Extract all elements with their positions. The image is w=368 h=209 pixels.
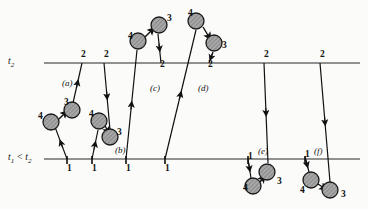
panel-label-f: (f)	[314, 147, 323, 156]
endpoint-number-9: 2	[208, 60, 213, 70]
particle-number-5: 3	[167, 14, 172, 24]
particle-number-10: 4	[300, 186, 305, 196]
particle-ball	[102, 129, 118, 145]
direction-arrow-c	[131, 104, 132, 109]
endpoint-number-3: 1	[165, 164, 170, 174]
direction-arrow-d	[179, 94, 180, 99]
interaction-connector	[203, 27, 209, 37]
particle-number-1: 3	[64, 98, 69, 108]
particle-number-7: 3	[222, 41, 227, 51]
endpoint-number-11: 2	[320, 50, 325, 60]
panel-label-c: (c)	[150, 84, 160, 93]
figure-canvas: t2 t1 < t2 (a)(b)(c)(d)(e)(f) 1111112222…	[0, 0, 368, 209]
axis-label-t2: t2	[8, 57, 14, 69]
direction-arrow-b	[94, 144, 95, 149]
endpoint-number-10: 2	[264, 50, 269, 60]
particle-number-8: 4	[243, 184, 248, 194]
particle-number-0: 4	[38, 112, 43, 122]
particle-ball	[303, 172, 319, 188]
particle-ball	[322, 182, 338, 198]
direction-arrow-f	[306, 160, 307, 165]
particle-ball	[259, 164, 275, 180]
particle-number-4: 4	[128, 32, 133, 42]
endpoint-number-8: 2	[160, 60, 165, 70]
direction-arrow-d	[211, 53, 213, 58]
endpoint-number-7: 2	[104, 50, 109, 60]
tick-marks	[67, 156, 305, 164]
endpoint-number-2: 1	[126, 164, 131, 174]
particle-ball	[206, 35, 222, 51]
particle-ball	[43, 114, 59, 130]
direction-arrow-e	[249, 164, 250, 169]
particle-number-6: 4	[188, 9, 193, 19]
direction-arrow-a	[76, 83, 77, 88]
particle-number-2: 4	[89, 110, 94, 120]
particle-number-9: 3	[277, 177, 282, 187]
panel-label-d: (d)	[198, 84, 209, 93]
diagram-vector-art	[0, 0, 368, 209]
panel-label-e: (e)	[258, 147, 268, 156]
endpoint-number-5: 1	[305, 150, 310, 160]
particle-number-11: 3	[341, 190, 346, 200]
panel-label-b: (b)	[115, 146, 126, 155]
direction-arrow-c	[159, 44, 160, 49]
particle-number-3: 3	[117, 128, 122, 138]
panel-label-a: (a)	[62, 79, 73, 88]
endpoint-number-1: 1	[92, 164, 97, 174]
direction-arrow-a	[61, 143, 63, 148]
particle-balls	[43, 13, 338, 198]
endpoint-number-4: 1	[248, 152, 253, 162]
interaction-connector	[59, 113, 65, 119]
interaction-connector	[145, 30, 152, 37]
particle-ball	[151, 17, 167, 33]
endpoint-number-0: 1	[67, 164, 72, 174]
endpoint-number-6: 2	[81, 50, 86, 60]
axis-label-t1-lt-t2: t1 < t2	[8, 153, 31, 165]
